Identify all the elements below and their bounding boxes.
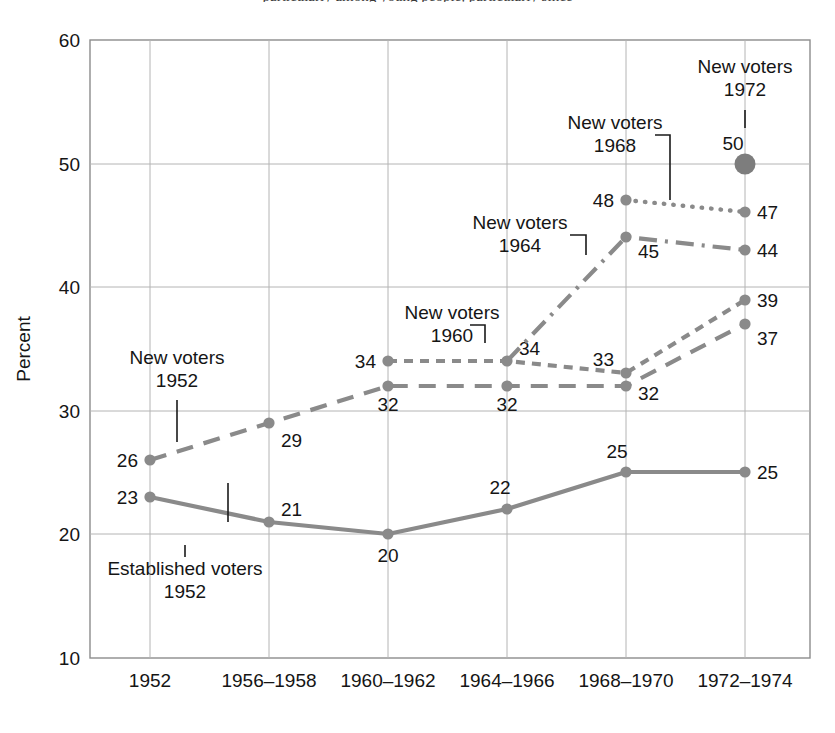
data-point [263,516,274,527]
point-label: 26 [117,450,138,471]
point-label: 39 [757,290,778,311]
data-point [382,528,393,539]
annotation-label-new-voters-1968-line2: 1968 [594,135,636,156]
point-label: 29 [281,430,302,451]
annotation-label-new-voters-1964-line1: New voters [472,212,567,233]
point-label: 45 [638,241,659,262]
y-axis: 60 50 40 30 20 10 Percent [13,30,80,669]
point-label: 48 [593,190,614,211]
annotation-label-established-voters-1952-line2: 1952 [164,581,206,602]
data-point [620,194,631,205]
annotation-label-new-voters-1952-line2: 1952 [156,370,198,391]
x-tick-label-1964-1966: 1964–1966 [459,670,554,691]
y-tick-label-10: 10 [59,648,80,669]
point-label: 32 [496,394,517,415]
data-point [739,294,750,305]
point-label: 34 [519,338,541,359]
point-label: 25 [606,441,627,462]
point-label: 23 [117,487,138,508]
point-label: 25 [757,462,778,483]
x-tick-label-1960-1962: 1960–1962 [340,670,435,691]
data-point [382,380,393,391]
y-tick-label-60: 60 [59,30,80,51]
annotation-label-new-voters-1960-line2: 1960 [431,325,473,346]
data-point [263,417,274,428]
point-label: 47 [757,202,778,223]
y-tick-label-50: 50 [59,154,80,175]
point-label: 50 [722,133,743,154]
annotation-label-new-voters-1972-line2: 1972 [724,79,766,100]
y-tick-label-40: 40 [59,277,80,298]
data-point [620,466,631,477]
point-label: 33 [593,349,614,370]
data-point [501,380,512,391]
data-point [620,231,631,242]
y-tick-label-20: 20 [59,524,80,545]
data-point [739,318,750,329]
x-tick-label-1956-1958: 1956–1958 [221,670,316,691]
point-label: 44 [757,240,779,261]
cropped-caption-fragment: particularly among young people, particu… [0,0,835,2]
y-axis-title: Percent [13,316,34,382]
annotation-label-new-voters-1960-line1: New voters [404,302,499,323]
annotation-label-new-voters-1972-line1: New voters [697,56,792,77]
annotation-label-established-voters-1952-line1: Established voters [107,558,262,579]
x-tick-label-1952: 1952 [129,670,171,691]
data-point [620,380,631,391]
point-label: 34 [355,351,377,372]
chart-figure: particularly among young people, particu… [0,0,835,733]
point-label: 20 [377,545,398,566]
voter-turnout-line-chart: 60 50 40 30 20 10 Percent 1952 1956–1958… [0,0,835,733]
x-axis: 1952 1956–1958 1960–1962 1964–1966 1968–… [129,670,793,691]
y-tick-label-30: 30 [59,401,80,422]
data-point [144,491,155,502]
point-label: 22 [489,477,510,498]
point-label: 32 [638,383,659,404]
data-point [501,503,512,514]
x-tick-label-1972-1974: 1972–1974 [697,670,793,691]
data-point [144,454,155,465]
data-point [739,206,750,217]
data-point [620,367,631,378]
point-label: 21 [281,499,302,520]
data-point-large [735,154,756,175]
annotation-label-new-voters-1964-line2: 1964 [499,235,542,256]
x-tick-label-1968-1970: 1968–1970 [578,670,673,691]
data-point [739,466,750,477]
data-point [739,244,750,255]
point-label: 32 [377,394,398,415]
data-point [382,355,393,366]
annotation-label-new-voters-1968-line1: New voters [567,112,662,133]
point-label: 37 [757,328,778,349]
annotation-label-new-voters-1952-line1: New voters [129,347,224,368]
